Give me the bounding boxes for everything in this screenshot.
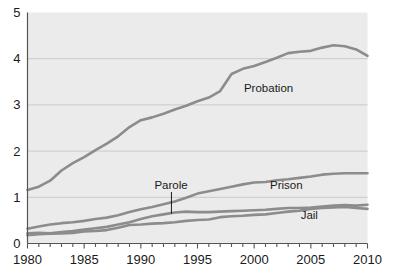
y-tick-label-4: 4 [13, 51, 20, 66]
y-tick-label-5: 5 [13, 5, 20, 20]
x-axis-ticks [28, 244, 368, 249]
jail-label: Jail [301, 209, 318, 221]
y-tick-label-1: 1 [13, 190, 20, 205]
x-tick-label-2000: 2000 [240, 252, 269, 267]
y-tick-label-3: 3 [13, 97, 20, 112]
x-axis-tick-labels: 1980198519901995200020052010 [13, 252, 382, 267]
x-tick-label-1985: 1985 [70, 252, 99, 267]
x-tick-label-2005: 2005 [296, 252, 325, 267]
x-tick-label-1980: 1980 [13, 252, 42, 267]
y-tick-label-0: 0 [13, 236, 20, 251]
x-tick-label-2010: 2010 [353, 252, 382, 267]
y-axis-tick-labels: 012345 [13, 5, 20, 251]
x-tick-label-1990: 1990 [126, 252, 155, 267]
y-tick-label-2: 2 [13, 144, 20, 159]
probation-label: Probation [244, 82, 293, 94]
prison-label: Prison [270, 179, 303, 191]
line-chart: 1980198519901995200020052010012345Probat… [0, 0, 395, 277]
x-tick-label-1995: 1995 [183, 252, 212, 267]
chart-container: 1980198519901995200020052010012345Probat… [0, 0, 395, 277]
parole-label: Parole [154, 179, 187, 191]
